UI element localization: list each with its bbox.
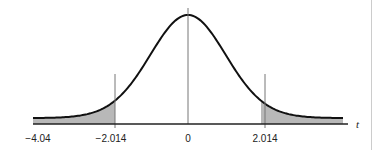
tick-label-0: 0 [185, 133, 191, 144]
tick-label-2-014: 2.014 [252, 133, 277, 144]
tick-label-neg-2-014: −2.014 [96, 133, 127, 144]
left-tail-shaded-region [33, 101, 115, 124]
tick-label-neg-4-04: −4.04 [25, 133, 51, 144]
right-tail-shaded-region [261, 101, 343, 124]
axis-variable-label: t [356, 118, 360, 130]
t-distribution-diagram: t −4.04 −2.014 0 2.014 [0, 0, 376, 155]
